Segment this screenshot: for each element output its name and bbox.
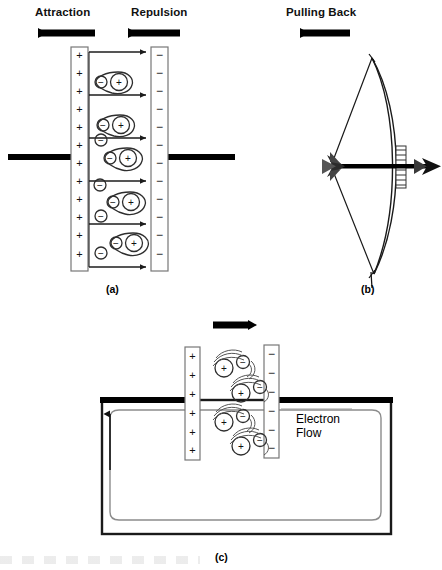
svg-text:+: + (116, 77, 122, 88)
svg-text:−: − (98, 77, 104, 88)
panel-a: + + + + + + + + + + + + − (8, 33, 235, 271)
svg-text:+: + (238, 441, 244, 452)
svg-text:+: + (76, 229, 82, 241)
atoms-c: + − + − (213, 350, 268, 455)
svg-text:+: + (189, 369, 195, 381)
svg-text:−: − (156, 192, 163, 206)
svg-text:+: + (76, 67, 82, 79)
svg-text:−: − (156, 66, 163, 80)
attraction-label: Attraction (35, 6, 90, 18)
svg-text:−: − (156, 228, 163, 242)
svg-text:+: + (76, 139, 82, 151)
svg-text:−: − (156, 84, 163, 98)
negative-plate-a: − − − − − − − − − − − − (151, 47, 168, 271)
svg-text:+: + (189, 388, 195, 400)
svg-text:+: + (76, 248, 82, 260)
panel-b (300, 33, 441, 288)
electron-flow-label: Electron Flow (296, 412, 340, 440)
wire-left-a (8, 154, 71, 160)
caption-a: (a) (106, 283, 119, 295)
svg-text:+: + (131, 238, 137, 249)
svg-text:−: − (156, 156, 163, 170)
panel-c: + + + + + + − − − − − − (100, 325, 393, 534)
svg-text:+: + (118, 120, 124, 131)
atom: + − (110, 233, 148, 256)
svg-text:−: − (113, 238, 119, 249)
repulsion-label: Repulsion (131, 6, 188, 18)
free-electron: − (94, 179, 106, 191)
wire-left-c (100, 397, 190, 403)
page-edge-artifact (0, 556, 200, 564)
svg-text:+: + (76, 157, 82, 169)
atoms-a: + − + − + − (94, 72, 148, 259)
atom: + − (107, 192, 145, 215)
svg-text:−: − (110, 197, 116, 208)
arrow-fletching-icon (322, 152, 345, 181)
svg-text:+: + (76, 193, 82, 205)
wire-right-a (168, 154, 235, 160)
electron-flow-path (110, 410, 381, 520)
svg-text:+: + (189, 407, 195, 419)
svg-text:−: − (156, 102, 163, 116)
svg-text:−: − (98, 135, 104, 146)
free-electron: − (95, 210, 107, 222)
caption-c: (c) (215, 551, 228, 563)
svg-text:−: − (156, 210, 163, 224)
svg-text:+: + (76, 49, 82, 61)
svg-text:+: + (221, 417, 227, 428)
svg-text:−: − (97, 180, 103, 191)
svg-text:−: − (100, 120, 106, 131)
svg-text:+: + (76, 175, 82, 187)
atom: + − (213, 404, 255, 433)
svg-text:+: + (189, 444, 195, 456)
wire-right-c (272, 397, 393, 403)
svg-text:+: + (189, 350, 195, 362)
svg-text:−: − (107, 153, 113, 164)
caption-b: (b) (361, 283, 374, 295)
svg-text:−: − (156, 247, 163, 261)
bow-tips (369, 54, 375, 288)
svg-text:+: + (128, 197, 134, 208)
figure-svg: + + + + + + + + + + + + − (0, 0, 442, 570)
svg-text:−: − (268, 404, 275, 418)
svg-text:−: − (268, 366, 275, 380)
svg-text:−: − (98, 211, 104, 222)
svg-text:+: + (125, 153, 131, 164)
free-electron: − (95, 134, 107, 146)
circuit-outer-loop (102, 400, 391, 534)
svg-text:−: − (268, 347, 275, 361)
arrow-tip-icon (414, 158, 441, 175)
svg-text:+: + (76, 85, 82, 97)
svg-text:−: − (156, 48, 163, 62)
figure-root: Attraction Repulsion Pulling Back (a) (b… (0, 0, 442, 570)
svg-text:−: − (268, 441, 275, 455)
atom: + − (230, 428, 268, 455)
svg-text:−: − (156, 120, 163, 134)
positive-plate-a: + + + + + + + + + + + + (71, 47, 88, 271)
svg-text:+: + (189, 426, 195, 438)
svg-text:−: − (156, 174, 163, 188)
atom: + − (97, 115, 134, 137)
svg-text:−: − (156, 138, 163, 152)
svg-text:+: + (221, 363, 227, 374)
svg-text:+: + (76, 121, 82, 133)
svg-text:−: − (98, 248, 104, 259)
svg-text:−: − (268, 423, 275, 437)
positive-plate-c: + + + + + + (185, 347, 200, 460)
atom: + − (95, 72, 132, 94)
svg-text:−: − (268, 385, 275, 399)
svg-text:+: + (76, 211, 82, 223)
pulling-back-label: Pulling Back (286, 6, 356, 18)
free-electron: − (95, 247, 107, 259)
atom: + − (104, 148, 142, 171)
svg-text:+: + (76, 103, 82, 115)
svg-text:+: + (238, 388, 244, 399)
